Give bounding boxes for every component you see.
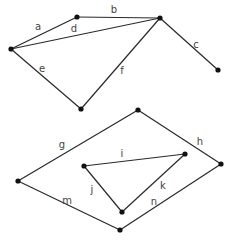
edge-label-m: m bbox=[62, 195, 72, 206]
edge-label-c: c bbox=[193, 39, 199, 50]
edge-label-n: n bbox=[151, 196, 157, 207]
node-K bbox=[182, 151, 187, 156]
node-J bbox=[81, 163, 86, 168]
node-G bbox=[218, 161, 223, 166]
edge-label-h: h bbox=[197, 136, 203, 147]
node-I bbox=[117, 227, 122, 232]
diagram-canvas: abcdefghijkmn bbox=[0, 0, 229, 241]
node-D bbox=[215, 67, 220, 72]
edges-layer bbox=[11, 17, 221, 230]
edge-b bbox=[77, 17, 160, 18]
edge-i bbox=[84, 154, 185, 166]
node-L bbox=[119, 209, 124, 214]
node-A bbox=[8, 46, 13, 51]
edge-label-j: j bbox=[90, 184, 94, 195]
edge-c bbox=[160, 18, 218, 70]
node-C bbox=[157, 15, 162, 20]
edge-label-i: i bbox=[121, 148, 124, 159]
node-F bbox=[135, 107, 140, 112]
edge-label-a: a bbox=[35, 21, 41, 32]
edge-g bbox=[18, 110, 138, 181]
node-B bbox=[74, 14, 79, 19]
edge-h bbox=[138, 110, 221, 164]
edge-n bbox=[120, 164, 221, 230]
edge-label-k: k bbox=[160, 180, 166, 191]
edge-label-e: e bbox=[39, 63, 45, 74]
edge-label-f: f bbox=[120, 65, 124, 76]
edge-label-g: g bbox=[59, 139, 65, 150]
edge-e bbox=[11, 49, 81, 109]
edge-label-d: d bbox=[71, 23, 77, 34]
node-H bbox=[15, 178, 20, 183]
edge-a bbox=[11, 17, 77, 49]
edge-label-b: b bbox=[111, 4, 117, 15]
node-E bbox=[78, 106, 83, 111]
